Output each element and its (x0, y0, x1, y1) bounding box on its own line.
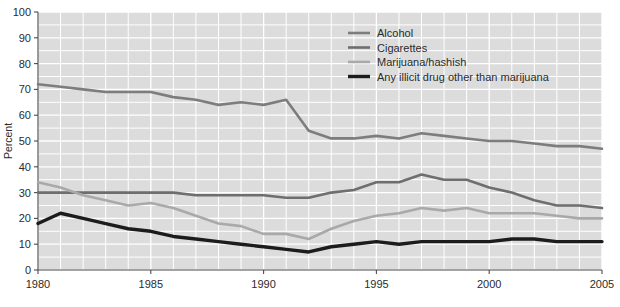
line-chart: 0102030405060708090100 19801985199019952… (0, 0, 620, 307)
chart-container: 0102030405060708090100 19801985199019952… (0, 0, 620, 307)
legend-label-3: Any illicit drug other than marijuana (377, 71, 550, 83)
y-tick-label: 70 (19, 83, 31, 95)
y-axis-title-text: Percent (2, 123, 14, 159)
x-tick-label: 2005 (590, 278, 614, 290)
legend-label-1: Cigarettes (377, 42, 428, 54)
y-tick-label: 90 (19, 32, 31, 44)
y-tick-label: 50 (19, 135, 31, 147)
x-tick-label: 1985 (139, 278, 163, 290)
legend-label-0: Alcohol (377, 27, 413, 39)
y-tick-label: 0 (25, 264, 31, 276)
x-tick-label: 1995 (364, 278, 388, 290)
y-axis-title: Percent (2, 123, 14, 159)
x-tick-label: 1980 (26, 278, 50, 290)
x-tick-label: 1990 (251, 278, 275, 290)
legend-label-2: Marijuana/hashish (377, 56, 466, 68)
y-tick-label: 40 (19, 161, 31, 173)
y-tick-label: 100 (13, 6, 31, 18)
y-tick-label: 20 (19, 212, 31, 224)
y-tick-label: 60 (19, 109, 31, 121)
x-tick-label: 2000 (477, 278, 501, 290)
y-tick-label: 80 (19, 58, 31, 70)
y-tick-label: 30 (19, 187, 31, 199)
y-tick-label: 10 (19, 238, 31, 250)
